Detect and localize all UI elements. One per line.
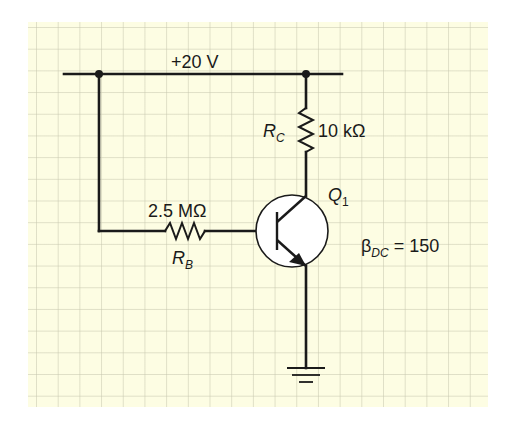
base-resistor-symbol bbox=[165, 223, 205, 239]
base-resistor-value: 2.5 MΩ bbox=[148, 202, 206, 220]
npn-transistor-symbol bbox=[256, 195, 328, 267]
base-resistor-name: RB bbox=[172, 249, 193, 267]
circuit-schematic bbox=[0, 0, 510, 432]
collector-resistor-name: RC bbox=[263, 122, 285, 140]
collector-resistor-value: 10 kΩ bbox=[318, 122, 365, 140]
junction-dot bbox=[302, 70, 310, 78]
ground-symbol bbox=[287, 368, 325, 382]
transistor-name: Q1 bbox=[328, 186, 349, 204]
supply-voltage-label: +20 V bbox=[171, 53, 219, 71]
collector-resistor-symbol bbox=[299, 108, 313, 152]
beta-label: βDC = 150 bbox=[361, 237, 439, 255]
junction-dot bbox=[95, 70, 103, 78]
